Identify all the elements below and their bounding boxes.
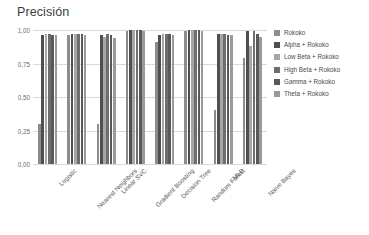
bar-group <box>150 30 179 164</box>
bar <box>188 30 191 164</box>
y-axis-tick-label: 0,25 <box>0 127 30 134</box>
bar <box>214 110 217 164</box>
bar <box>142 31 145 164</box>
bar <box>81 34 84 164</box>
bar <box>194 30 197 164</box>
bar-group <box>179 30 208 164</box>
x-axis-tick-label: Logistic <box>57 167 77 187</box>
chart-title: Precisión <box>17 5 69 19</box>
bar <box>41 35 44 164</box>
legend-item[interactable]: Theta + Rokoko <box>274 88 369 100</box>
bar <box>45 34 48 164</box>
bar <box>71 34 74 164</box>
bar <box>162 34 165 164</box>
legend-swatch-icon <box>274 79 280 85</box>
bar <box>253 31 256 164</box>
legend-item[interactable]: Low Beta + Rokoko <box>274 51 369 63</box>
bar <box>77 34 80 164</box>
bar <box>227 35 230 164</box>
y-axis-tick-label: 0,50 <box>0 94 30 101</box>
bar-group <box>62 30 91 164</box>
bar <box>191 30 194 164</box>
bar <box>67 35 70 164</box>
bar <box>172 35 175 164</box>
bar <box>217 34 220 164</box>
x-axis-tick-label: Naive Bayes <box>266 167 296 197</box>
bar <box>223 34 226 164</box>
bar <box>168 34 171 164</box>
chart-figure: Precisión 0,000,250,500,751,00 LogisticN… <box>0 0 369 235</box>
bar <box>249 46 252 164</box>
bar <box>74 34 77 164</box>
legend-label: Theta + Rokoko <box>284 91 329 97</box>
legend-item[interactable]: High Beta + Rokoko <box>274 64 369 76</box>
bar <box>198 30 201 164</box>
bar <box>126 31 129 164</box>
bar <box>220 34 223 164</box>
legend-label: Low Beta + Rokoko <box>284 54 339 60</box>
bar <box>230 35 233 164</box>
bar <box>110 35 113 164</box>
bar <box>184 31 187 164</box>
bar <box>132 30 135 164</box>
bar <box>55 35 58 164</box>
bar <box>48 34 51 164</box>
legend-label: Alpha + Rokoko <box>284 42 329 48</box>
bar-group <box>33 30 62 164</box>
bar <box>106 34 109 164</box>
bar <box>246 31 249 164</box>
bar <box>97 124 100 164</box>
y-axis-tick-label: 0,75 <box>0 60 30 67</box>
bar <box>51 35 54 164</box>
bar <box>139 30 142 164</box>
bar <box>155 42 158 164</box>
bar <box>100 35 103 164</box>
legend-item[interactable]: Rokoko <box>274 27 369 39</box>
bar <box>201 31 204 164</box>
legend-swatch-icon <box>274 42 280 48</box>
x-axis-tick-label: Nearest Neighbors <box>96 167 139 210</box>
legend-label: Rokoko <box>284 30 305 36</box>
legend-swatch-icon <box>274 67 280 73</box>
bar <box>259 37 262 164</box>
legend-swatch-icon <box>274 54 280 60</box>
legend-swatch-icon <box>274 91 280 97</box>
bar <box>243 58 246 164</box>
bar-group <box>92 30 121 164</box>
x-axis-tick-labels: LogisticNearest NeighborsLinear SVCGradi… <box>33 164 267 232</box>
chart-legend: RokokoAlpha + RokokoLow Beta + RokokoHig… <box>274 27 369 100</box>
bar-group <box>121 30 150 164</box>
bar <box>38 124 41 164</box>
bar <box>158 35 161 164</box>
legend-swatch-icon <box>274 30 280 36</box>
bar <box>136 30 139 164</box>
bar <box>113 38 116 164</box>
bar <box>129 30 132 164</box>
bar <box>103 37 106 164</box>
legend-item[interactable]: Alpha + Rokoko <box>274 39 369 51</box>
bar <box>84 35 87 164</box>
legend-label: High Beta + Rokoko <box>284 67 340 73</box>
plot-area <box>33 30 267 164</box>
legend-item[interactable]: Gamma + Rokoko <box>274 76 369 88</box>
bar-group <box>238 30 267 164</box>
bar-group <box>209 30 238 164</box>
bar <box>256 34 259 164</box>
y-axis-tick-label: 0,00 <box>0 161 30 168</box>
y-axis-tick-label: 1,00 <box>0 27 30 34</box>
legend-label: Gamma + Rokoko <box>284 79 335 85</box>
bar <box>165 34 168 164</box>
